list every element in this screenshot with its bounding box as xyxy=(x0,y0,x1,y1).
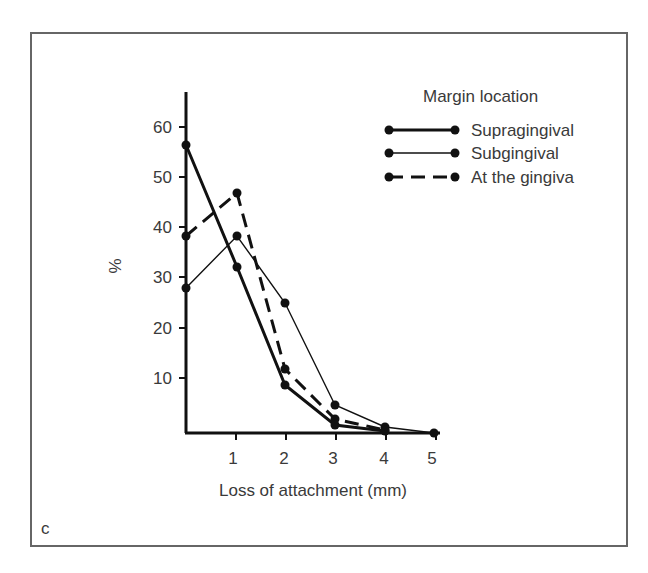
y-tick-30: 30 xyxy=(153,268,172,287)
line-chart: 60 50 40 30 20 10 1 2 3 4 5 Loss of atta… xyxy=(0,0,648,573)
y-tick-50: 50 xyxy=(153,168,172,187)
legend-title: Margin location xyxy=(423,87,538,106)
x-tick-1: 1 xyxy=(228,449,237,468)
x-axis-label: Loss of attachment (mm) xyxy=(219,481,407,500)
y-tick-10: 10 xyxy=(153,369,172,388)
legend-label-supragingival: Supragingival xyxy=(471,121,574,140)
legend-item-subgingival: Subgingival xyxy=(385,144,559,163)
legend-item-at-the-gingiva: At the gingiva xyxy=(385,168,575,187)
y-tick-20: 20 xyxy=(153,319,172,338)
legend: Margin location Supragingival Subgingiva… xyxy=(385,87,575,187)
x-tick-3: 3 xyxy=(328,449,337,468)
x-tick-5: 5 xyxy=(427,449,436,468)
legend-label-subgingival: Subgingival xyxy=(471,144,559,163)
legend-label-at-the-gingiva: At the gingiva xyxy=(471,168,575,187)
legend-item-supragingival: Supragingival xyxy=(385,121,575,140)
panel-label: c xyxy=(41,519,50,539)
y-tick-60: 60 xyxy=(153,118,172,137)
y-axis-label: % xyxy=(106,258,125,273)
x-tick-4: 4 xyxy=(379,449,388,468)
y-tick-labels: 60 50 40 30 20 10 xyxy=(153,118,172,388)
x-tick-2: 2 xyxy=(279,449,288,468)
series-at-the-gingiva xyxy=(182,189,390,435)
y-tick-40: 40 xyxy=(153,218,172,237)
x-tick-labels: 1 2 3 4 5 xyxy=(228,449,436,468)
series-supragingival xyxy=(182,141,390,436)
